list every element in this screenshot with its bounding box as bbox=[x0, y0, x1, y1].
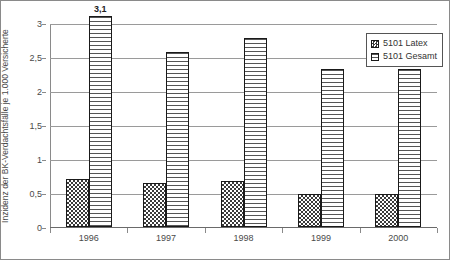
bar-group bbox=[298, 24, 344, 227]
y-tick-label-1-5: 1,5 bbox=[29, 121, 42, 131]
bar-gesamt-1999[interactable] bbox=[321, 69, 344, 227]
bar-latex-2000[interactable] bbox=[375, 194, 398, 227]
y-tick-label-2-5: 2,5 bbox=[29, 53, 42, 63]
bar-group bbox=[143, 24, 189, 227]
x-tick-label-1998: 1998 bbox=[233, 233, 253, 243]
legend-swatch-striped-icon bbox=[371, 53, 379, 61]
bar-value-label: 3,1 bbox=[94, 4, 107, 14]
bar-latex-1997[interactable] bbox=[143, 183, 166, 227]
x-tick-label-2000: 2000 bbox=[388, 233, 408, 243]
bar-latex-1996[interactable] bbox=[66, 179, 89, 227]
bar-gesamt-1996[interactable]: 3,1 bbox=[89, 16, 112, 227]
legend-label-gesamt: 5101 Gesamt bbox=[383, 50, 437, 63]
bar-latex-1998[interactable] bbox=[221, 181, 244, 227]
y-axis: 3 2,5 2 1,5 1 0,5 0 bbox=[0, 24, 46, 228]
legend-swatch-speckled-icon bbox=[371, 40, 379, 48]
bar-gesamt-1997[interactable] bbox=[166, 52, 189, 227]
bar-group: 3,1 bbox=[66, 24, 112, 227]
legend-label-latex: 5101 Latex bbox=[383, 37, 428, 50]
x-tick-label-1999: 1999 bbox=[311, 233, 331, 243]
bar-latex-1999[interactable] bbox=[298, 194, 321, 227]
bar-gesamt-1998[interactable] bbox=[244, 38, 267, 227]
legend-item-gesamt[interactable]: 5101 Gesamt bbox=[371, 50, 437, 63]
bar-gesamt-2000[interactable] bbox=[398, 69, 421, 227]
legend-item-latex[interactable]: 5101 Latex bbox=[371, 37, 437, 50]
x-tick-label-1996: 1996 bbox=[79, 233, 99, 243]
bar-group bbox=[221, 24, 267, 227]
x-tick bbox=[437, 228, 438, 233]
chart-legend: 5101 Latex 5101 Gesamt bbox=[366, 33, 443, 67]
x-tick-label-1997: 1997 bbox=[156, 233, 176, 243]
chart-container: Inzidenz der BK-Verdachtsfälle je 1.000 … bbox=[0, 0, 451, 261]
x-axis-labels: 19961997199819992000 bbox=[50, 233, 437, 249]
y-tick-label-0-5: 0,5 bbox=[29, 189, 42, 199]
